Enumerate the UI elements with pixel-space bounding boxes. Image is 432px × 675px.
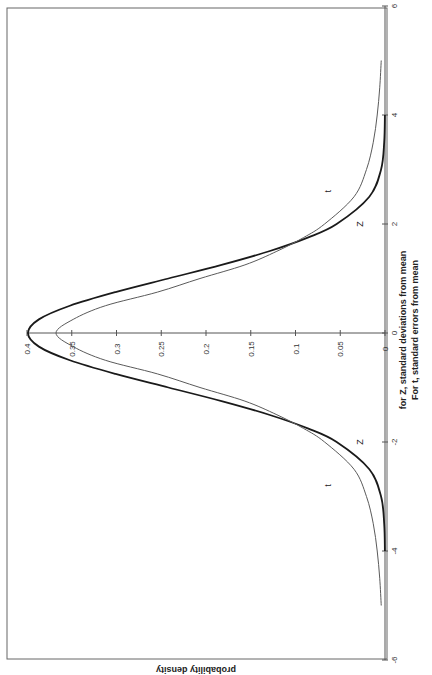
x-axis-title-line2: For t, standard errors from mean bbox=[410, 260, 420, 400]
x-tick-label: 6 bbox=[390, 3, 399, 8]
t-curve-label: t bbox=[323, 190, 333, 193]
x-tick-label: -6 bbox=[390, 656, 399, 664]
y-tick-label: 0.2 bbox=[202, 343, 211, 355]
plot-area: -6-4-2024600.050.10.150.20.250.30.350.4t… bbox=[23, 3, 399, 663]
chart-canvas: -6-4-2024600.050.10.150.20.250.30.350.4t… bbox=[0, 0, 432, 675]
y-tick-label: 0.25 bbox=[157, 341, 166, 357]
x-tick-label: 4 bbox=[390, 112, 399, 117]
x-tick-label: -4 bbox=[390, 547, 399, 555]
y-tick-label: 0.05 bbox=[336, 341, 345, 357]
y-tick-label: 0.4 bbox=[23, 343, 32, 355]
y-tick-label: 0.35 bbox=[68, 341, 77, 357]
x-tick-label: -2 bbox=[390, 438, 399, 446]
z-curve-label: Z bbox=[355, 221, 365, 227]
x-tick-label: 2 bbox=[390, 221, 399, 226]
y-tick-label: 0.15 bbox=[247, 341, 256, 357]
y-tick-label: 0.1 bbox=[292, 343, 301, 355]
y-tick-label: 0 bbox=[381, 346, 390, 351]
t-curve-label: t bbox=[323, 484, 333, 487]
z-curve-label: Z bbox=[355, 439, 365, 445]
x-axis-title-line1: for Z, standard deviations from mean bbox=[398, 251, 408, 410]
y-axis-title: probability density bbox=[156, 665, 236, 675]
y-tick-label: 0.3 bbox=[113, 343, 122, 355]
